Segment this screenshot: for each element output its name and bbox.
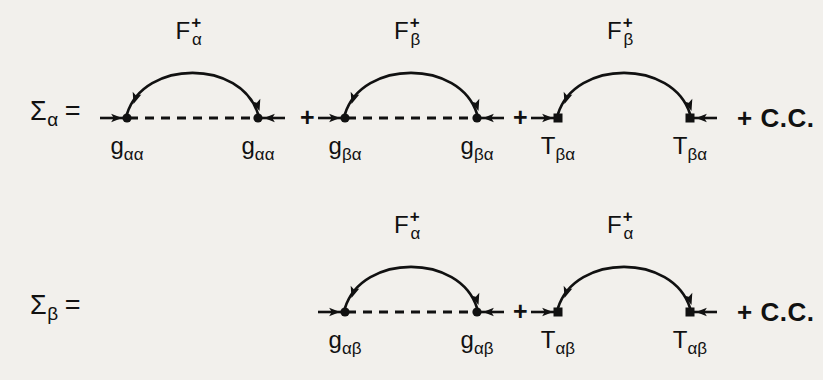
sigma-symbol: Σ [30, 96, 47, 126]
vertex-label-left-term-g-alpha-beta: gαβ [329, 328, 362, 357]
propagator-arc [558, 267, 690, 308]
vertex-right-circle [253, 113, 262, 122]
diagram-term-g-alpha-beta [318, 267, 504, 317]
arc-label-term-g-alpha-alpha: F+α [176, 14, 202, 48]
propagator-arc [345, 73, 477, 114]
vertex-left-square [554, 308, 563, 317]
vertex-right-square [686, 114, 695, 123]
arc-label-term-g-alpha-beta: F+α [394, 208, 420, 242]
complex-conjugate-label-sigma-beta: + C.C. [737, 297, 814, 328]
vertex-left-circle [122, 113, 131, 122]
vertex-right-square [686, 308, 695, 317]
plus-separator-0-1: + [513, 105, 528, 130]
vertex-label-left-term-T-alpha-beta: Tαβ [541, 328, 575, 357]
diagram-canvas [0, 0, 823, 380]
propagator-arc [558, 73, 690, 114]
vertex-label-right-term-g-alpha-alpha: gαα [241, 134, 274, 163]
equals-sign: = [65, 290, 81, 320]
vertex-left-square [554, 114, 563, 123]
arc-label-term-T-alpha-beta: F+α [607, 208, 633, 242]
vertex-right-circle [472, 307, 481, 316]
vertex-right-circle [472, 113, 481, 122]
propagator-arc [127, 73, 258, 114]
vertex-label-right-term-T-alpha-beta: Tαβ [673, 328, 707, 357]
feynman-diagram-figure: Σα=F+αgααgααF+βgβαgβαF+βTβαTβα+++ C.C.Σβ… [0, 0, 823, 380]
diagram-term-g-beta-alpha [318, 73, 504, 123]
propagator-arc [345, 267, 477, 308]
arc-label-term-T-beta-alpha: F+β [607, 14, 633, 48]
vertex-left-circle [340, 307, 349, 316]
diagram-term-g-alpha-alpha [100, 73, 285, 123]
sigma-subscript: α [47, 109, 58, 130]
vertex-label-right-term-T-beta-alpha: Tβα [673, 134, 707, 163]
equals-sign: = [65, 96, 81, 126]
vertex-label-right-term-g-alpha-beta: gαβ [461, 328, 494, 357]
vertex-label-right-term-g-beta-alpha: gβα [461, 134, 494, 163]
vertex-label-left-term-g-alpha-alpha: gαα [110, 134, 143, 163]
equation-lhs-sigma-alpha: Σα= [30, 96, 81, 131]
plus-separator-0-0: + [300, 105, 315, 130]
equation-lhs-sigma-beta: Σβ= [30, 290, 81, 325]
plus-separator-1-0: + [513, 299, 528, 324]
complex-conjugate-label-sigma-alpha: + C.C. [737, 103, 814, 134]
vertex-label-left-term-T-beta-alpha: Tβα [541, 134, 575, 163]
vertex-label-left-term-g-beta-alpha: gβα [329, 134, 362, 163]
sigma-subscript: β [47, 303, 58, 324]
sigma-symbol: Σ [30, 290, 47, 320]
vertex-left-circle [340, 113, 349, 122]
diagram-term-T-alpha-beta [531, 267, 717, 317]
arc-label-term-g-beta-alpha: F+β [394, 14, 420, 48]
diagram-term-T-beta-alpha [531, 73, 717, 123]
